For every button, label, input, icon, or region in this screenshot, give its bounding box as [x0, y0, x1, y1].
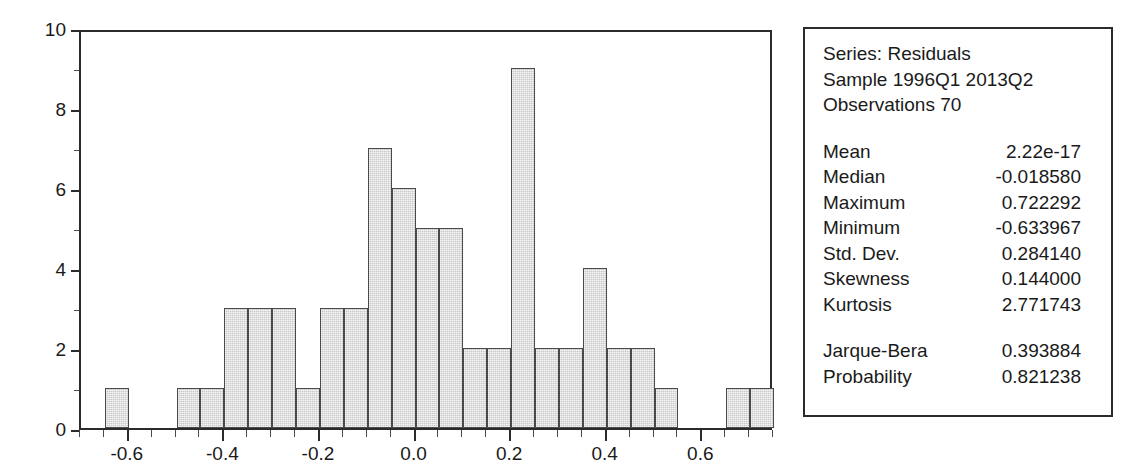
y-axis-tick — [71, 430, 79, 432]
statistic-row: Kurtosis2.771743 — [823, 292, 1095, 318]
statistics-box: Series: Residuals Sample 1996Q1 2013Q2 O… — [803, 27, 1113, 417]
x-axis-minor-tick — [390, 430, 391, 437]
y-axis-tick-label: 10 — [4, 20, 66, 39]
histogram-bar — [750, 388, 774, 428]
x-axis-tick-label: -0.2 — [278, 444, 358, 464]
descriptive-statistics-list: Mean2.22e-17Median-0.018580Maximum0.7222… — [823, 139, 1111, 318]
histogram-chart: 0246810 -0.6-0.4-0.20.00.20.40.6 — [0, 0, 790, 474]
x-axis-minor-tick — [175, 430, 176, 437]
x-axis-tick — [222, 430, 224, 441]
statistic-value: 0.722292 — [955, 190, 1095, 216]
y-axis-tick — [71, 270, 79, 272]
y-axis-label-group: 0246810 — [0, 0, 66, 474]
statistic-row: Skewness0.144000 — [823, 266, 1095, 292]
x-axis-tick — [318, 430, 320, 441]
statistic-label: Jarque-Bera — [823, 338, 955, 364]
statistic-value: 0.284140 — [955, 241, 1095, 267]
x-axis-tick — [414, 430, 416, 441]
x-axis-tick — [127, 430, 129, 441]
x-axis-tick — [509, 430, 511, 441]
statistic-label: Mean — [823, 139, 955, 165]
histogram-bar — [416, 228, 440, 428]
x-axis-tick-label: 0.0 — [374, 444, 454, 464]
x-axis-minor-tick — [581, 430, 582, 437]
statistic-value: -0.018580 — [955, 164, 1095, 190]
x-axis-minor-tick — [246, 430, 247, 437]
plot-frame — [79, 30, 772, 430]
histogram-bar — [248, 308, 272, 428]
x-axis-minor-tick — [676, 430, 677, 437]
x-axis-minor-tick — [748, 430, 749, 437]
normality-test-list: Jarque-Bera0.393884Probability0.821238 — [823, 338, 1111, 389]
x-axis-minor-tick — [366, 430, 367, 437]
x-axis-minor-tick — [198, 430, 199, 437]
series-name-line: Series: Residuals — [823, 41, 1111, 67]
statistic-label: Maximum — [823, 190, 955, 216]
y-axis-tick-label: 8 — [4, 100, 66, 119]
x-axis-minor-tick — [653, 430, 654, 437]
x-axis-tick-label: 0.4 — [565, 444, 645, 464]
statistic-value: 0.393884 — [955, 338, 1095, 364]
stats-spacer — [823, 118, 1111, 139]
histogram-bar — [607, 348, 631, 428]
histogram-bar — [631, 348, 655, 428]
x-axis-tick-label: 0.6 — [660, 444, 740, 464]
x-axis-minor-tick — [557, 430, 558, 437]
histogram-bar — [344, 308, 368, 428]
statistic-label: Probability — [823, 364, 955, 390]
histogram-bar — [105, 388, 129, 428]
y-axis-tick — [71, 110, 79, 112]
statistic-row: Jarque-Bera0.393884 — [823, 338, 1095, 364]
histogram-bar — [583, 268, 607, 428]
statistic-row: Probability0.821238 — [823, 364, 1095, 390]
histogram-bar — [296, 388, 320, 428]
histogram-bar — [535, 348, 559, 428]
histogram-bar — [368, 148, 392, 428]
y-axis-tick-label: 4 — [4, 260, 66, 279]
statistic-value: 2.771743 — [955, 292, 1095, 318]
x-axis-minor-tick — [79, 430, 80, 437]
histogram-bar — [200, 388, 224, 428]
x-axis-minor-tick — [533, 430, 534, 437]
statistic-row: Maximum0.722292 — [823, 190, 1095, 216]
statistic-value: -0.633967 — [955, 215, 1095, 241]
statistic-row: Mean2.22e-17 — [823, 139, 1095, 165]
histogram-bars — [81, 32, 770, 428]
statistic-value: 0.144000 — [955, 266, 1095, 292]
histogram-bar — [177, 388, 201, 428]
x-axis-minor-tick — [485, 430, 486, 437]
histogram-bar — [511, 68, 535, 428]
sample-range-line: Sample 1996Q1 2013Q2 — [823, 67, 1111, 93]
statistic-label: Std. Dev. — [823, 241, 955, 267]
statistic-label: Kurtosis — [823, 292, 955, 318]
statistic-row: Std. Dev.0.284140 — [823, 241, 1095, 267]
x-axis-minor-tick — [772, 430, 773, 437]
histogram-bar — [726, 388, 750, 428]
x-axis-minor-tick — [294, 430, 295, 437]
histogram-bar — [224, 308, 248, 428]
histogram-bar — [463, 348, 487, 428]
statistic-value: 2.22e-17 — [955, 139, 1095, 165]
statistic-label: Skewness — [823, 266, 955, 292]
x-axis-minor-tick — [437, 430, 438, 437]
x-axis-minor-tick — [103, 430, 104, 437]
x-axis-tick-label: 0.2 — [469, 444, 549, 464]
statistic-row: Median-0.018580 — [823, 164, 1095, 190]
y-axis-tick-label: 2 — [4, 340, 66, 359]
histogram-bar — [655, 388, 679, 428]
x-axis-minor-tick — [724, 430, 725, 437]
histogram-bar — [320, 308, 344, 428]
y-axis-tick — [71, 30, 79, 32]
observations-line: Observations 70 — [823, 92, 1111, 118]
y-axis-tick — [71, 190, 79, 192]
stats-spacer — [823, 317, 1111, 338]
histogram-bar — [559, 348, 583, 428]
histogram-bar — [392, 188, 416, 428]
x-axis-tick — [605, 430, 607, 441]
statistic-label: Minimum — [823, 215, 955, 241]
y-axis-tick-label: 0 — [4, 420, 66, 439]
x-axis-tick-label: -0.6 — [87, 444, 167, 464]
statistic-value: 0.821238 — [955, 364, 1095, 390]
statistic-label: Median — [823, 164, 955, 190]
y-axis-tick-label: 6 — [4, 180, 66, 199]
